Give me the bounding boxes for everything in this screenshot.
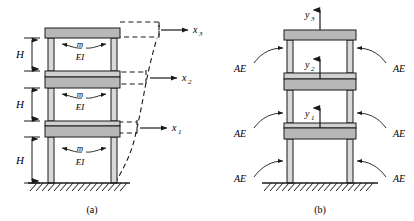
mass-arrow-right-3	[86, 44, 106, 48]
mass-stiffness-annotation-1	[62, 148, 106, 152]
figure-root: H H H m EI m EI m EI	[0, 0, 414, 221]
ae-leader-left-3	[254, 48, 283, 63]
beam-level3	[45, 71, 120, 77]
dof-label-x3-sub: 3	[198, 30, 203, 38]
dof-label-y2-base: y	[304, 59, 310, 70]
stiffness-label-1: EI	[75, 157, 85, 167]
dashed-deflection-curve	[115, 38, 157, 183]
ground-support-b	[262, 183, 378, 191]
beam-level2	[45, 121, 120, 126]
dof-label-y1: y 1	[304, 108, 315, 122]
ground-support-a	[28, 183, 130, 191]
axial-label-right-1: AE	[392, 173, 405, 184]
axial-label-right-2: AE	[392, 128, 405, 139]
panel-a-caption: (a)	[86, 204, 97, 216]
dof-label-x2-sub: 2	[188, 78, 192, 86]
axial-label-left-1: AE	[233, 173, 246, 184]
column-right-story1	[111, 137, 117, 183]
dof-label-y3: y 3	[304, 9, 315, 23]
column-left-story1-b	[287, 139, 293, 183]
story-height-dimensions	[24, 38, 40, 183]
axial-label-right-3: AE	[392, 63, 405, 74]
stiffness-label-2: EI	[75, 102, 85, 112]
mass-label-1: m	[77, 143, 84, 153]
column-left-story2-b	[287, 90, 293, 123]
mass-stiffness-annotation-2	[62, 94, 106, 98]
dof-label-x1: x 1	[171, 122, 182, 136]
stiffness-label-3: EI	[75, 52, 85, 62]
mass-stiffness-annotation-3	[62, 44, 106, 48]
axial-rigidity-leaders-left	[254, 48, 283, 177]
dof-label-x1-base: x	[171, 122, 177, 133]
slab-level2	[45, 77, 120, 88]
mass-label-3: m	[77, 39, 84, 49]
column-left-story2	[48, 88, 54, 121]
ae-leader-right-1	[357, 161, 386, 177]
ae-leader-left-1	[254, 161, 283, 177]
dof-label-x1-sub: 1	[178, 128, 182, 136]
axial-label-left-2: AE	[233, 128, 246, 139]
column-left-story3-b	[287, 40, 293, 73]
dof-label-y1-base: y	[304, 108, 310, 119]
dof-label-y2: y 2	[304, 59, 315, 73]
dof-label-x3: x 3	[192, 24, 203, 38]
panel-b-caption: (b)	[314, 204, 326, 216]
dof-label-y3-base: y	[304, 9, 310, 20]
slab-level2-b	[284, 79, 356, 90]
ae-leader-right-2	[357, 113, 386, 128]
story-height-label-2: H	[15, 98, 25, 110]
column-right-story3-b	[347, 40, 353, 73]
slab-level1	[45, 126, 120, 137]
dof-label-y3-sub: 3	[310, 15, 315, 23]
dof-label-y1-sub: 1	[311, 114, 315, 122]
ae-leader-left-2	[254, 113, 283, 128]
panel-a: H H H m EI m EI m EI	[15, 22, 203, 216]
dof-label-x2: x 2	[181, 72, 192, 86]
story-height-label-3: H	[15, 48, 25, 60]
structural-frame-figure: H H H m EI m EI m EI	[0, 0, 414, 221]
column-left-story1	[48, 137, 54, 183]
axial-label-left-3: AE	[233, 63, 246, 74]
dashed-top-slab	[120, 22, 159, 37]
dof-label-x3-base: x	[192, 24, 198, 35]
dof-label-y2-sub: 2	[311, 65, 315, 73]
column-right-story2-b	[347, 90, 353, 123]
story-height-label-1: H	[15, 154, 25, 166]
slab-roof	[45, 28, 120, 38]
mass-label-2: m	[77, 89, 84, 99]
panel-b: y 3 y 2 y 1 AE AE	[233, 9, 405, 216]
dof-label-x2-base: x	[181, 72, 187, 83]
ae-leader-right-3	[357, 48, 386, 63]
slab-level1-b	[284, 128, 356, 139]
mass-arrow-right-2	[86, 94, 106, 98]
mass-arrow-right-1	[86, 148, 106, 152]
column-right-story1-b	[347, 139, 353, 183]
axial-rigidity-leaders-right	[357, 48, 386, 177]
column-left-story3	[48, 38, 54, 71]
slab-roof-b	[284, 30, 356, 40]
column-right-story3	[111, 38, 117, 71]
column-right-story2	[111, 88, 117, 121]
